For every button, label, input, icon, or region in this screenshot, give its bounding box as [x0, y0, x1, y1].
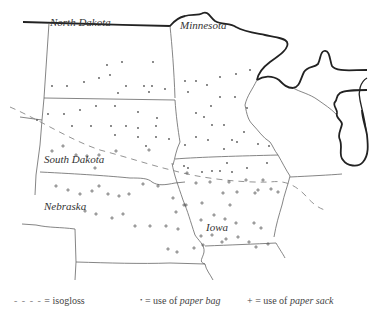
bag-prefix: = use of [145, 295, 180, 306]
state-label-south-dakota: South Dakota [44, 153, 104, 165]
paper-sack-plus [97, 184, 101, 188]
paper-bag-dot [36, 119, 38, 121]
paper-sack-plus [220, 240, 224, 244]
paper-bag-dot [187, 167, 189, 169]
paper-bag-dot [195, 112, 197, 114]
bag-symbol: • [140, 296, 142, 304]
paper-sack-plus [117, 194, 121, 198]
paper-bag-dot [168, 138, 170, 140]
paper-bag-dot [106, 64, 108, 66]
paper-sack-plus [253, 191, 257, 195]
sack-term: paper sack [290, 295, 334, 306]
paper-sack-plus [175, 250, 179, 254]
paper-bag-dot [231, 171, 233, 173]
paper-sack-plus [54, 184, 58, 188]
paper-sack-plus [66, 188, 70, 192]
paper-bag-dot [207, 139, 209, 141]
paper-bag-dot [195, 136, 197, 138]
paper-bag-dot [211, 170, 213, 172]
paper-bag-dot [155, 125, 157, 127]
paper-bag-dot [249, 69, 251, 71]
paper-sack-plus [208, 180, 212, 184]
paper-bag-dot [83, 81, 85, 83]
paper-sack-plus [78, 192, 82, 196]
isogloss-symbol: - - - - [14, 295, 42, 306]
paper-bag-dot [63, 113, 65, 115]
paper-sack-plus [235, 190, 239, 194]
paper-bag-dot [219, 96, 221, 98]
paper-bag-dot [51, 85, 53, 87]
paper-sack-plus [266, 242, 270, 246]
paper-bag-dot [156, 117, 158, 119]
map-legend: - - - - = isogloss • = use of paper bag … [0, 280, 387, 325]
paper-sack-plus [133, 224, 137, 228]
paper-bag-dot [125, 85, 127, 87]
paper-sack-plus [199, 234, 203, 238]
paper-bag-dot [164, 88, 166, 90]
paper-bag-dot [211, 124, 213, 126]
paper-sack-plus [147, 148, 151, 152]
paper-bag-dot [203, 116, 205, 118]
paper-sack-plus [256, 188, 260, 192]
paper-bag-dot [246, 107, 248, 109]
paper-sack-plus [114, 149, 118, 153]
paper-bag-dot [219, 76, 221, 78]
paper-sack-plus [247, 240, 251, 244]
paper-sack-plus [90, 189, 94, 193]
paper-sack-plus [244, 178, 248, 182]
paper-bag-dot [137, 127, 139, 129]
paper-bag-dot [201, 171, 203, 173]
paper-bag-dot [223, 124, 225, 126]
paper-bag-dot [95, 105, 97, 107]
paper-sack-plus [228, 203, 232, 207]
paper-sack-plus [94, 212, 98, 216]
paper-sack-plus [261, 178, 265, 182]
paper-bag-dot [246, 167, 248, 169]
paper-bag-dot [257, 143, 259, 145]
paper-bag-dot [145, 145, 147, 147]
paper-bag-dot [206, 84, 208, 86]
paper-bag-dot [223, 148, 225, 150]
paper-bag-dot [114, 134, 116, 136]
state-label-nebraska: Nebraska [44, 200, 86, 212]
paper-bag-dot [268, 145, 270, 147]
state-borders [20, 23, 342, 280]
paper-sack-plus [199, 218, 203, 222]
paper-sack-plus [234, 221, 238, 225]
paper-bag-dot [66, 85, 68, 87]
paper-sack-plus [106, 192, 110, 196]
paper-bag-dot [47, 113, 49, 115]
paper-sack-plus [252, 221, 256, 225]
paper-sack-plus [121, 212, 125, 216]
lake-superior-south-shore [257, 51, 367, 88]
paper-sack-plus [148, 224, 152, 228]
paper-bag-dot [143, 85, 145, 87]
paper-bag-dot [187, 91, 189, 93]
paper-bag-dot [90, 125, 92, 127]
paper-bag-dot [266, 162, 268, 164]
paper-sack-plus [269, 187, 273, 191]
paper-bag-dot [148, 91, 150, 93]
paper-bag-dot [226, 162, 228, 164]
state-label-north-dakota: North Dakota [50, 16, 111, 28]
paper-sack-plus [174, 210, 178, 214]
paper-bag-dot [184, 80, 186, 82]
paper-sack-plus [176, 227, 180, 231]
paper-sack-plus [210, 233, 214, 237]
paper-sack-plus [224, 237, 228, 241]
paper-sack-plus [254, 245, 258, 249]
paper-bag-dot [210, 105, 212, 107]
paper-bag-dot [114, 105, 116, 107]
paper-sack-plus [236, 235, 240, 239]
paper-bag-dot [109, 74, 111, 76]
paper-sack-plus [171, 196, 175, 200]
paper-bag-dot [219, 170, 221, 172]
paper-sack-plus [200, 201, 204, 205]
legend-isogloss: - - - - = isogloss [14, 295, 85, 306]
paper-sack-plus [141, 182, 145, 186]
isogloss-label: = isogloss [44, 295, 84, 306]
paper-bag-dot [151, 85, 153, 87]
paper-bag-dot [183, 165, 185, 167]
paper-bag-dot [152, 61, 154, 63]
paper-bag-dot [231, 139, 233, 141]
